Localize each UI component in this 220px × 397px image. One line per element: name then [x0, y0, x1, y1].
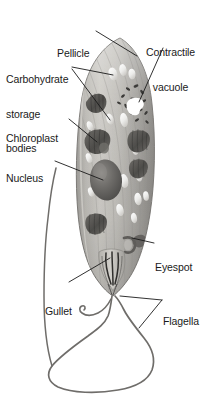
label-gullet: Gullet [45, 283, 72, 329]
long-flagellum-upper-arm [44, 168, 56, 366]
label-eyespot-line-0: Eyespot [155, 262, 192, 274]
label-carbohydrate-line-0: Carbohydrate [6, 74, 68, 86]
leader-flagella-bracket [120, 296, 162, 328]
label-flagella-line-0: Flagella [163, 316, 199, 328]
label-contractile-line-0: Contractile [146, 47, 195, 59]
cell-body-group [66, 38, 154, 300]
label-contractile-line-1: vacuole [146, 82, 195, 94]
label-nucleus-line-0: Nucleus [6, 173, 43, 185]
label-contractile-vacuole: Contractile vacuole [146, 24, 195, 105]
label-chloroplast-line-0: Chloroplast [6, 133, 58, 145]
label-gullet-line-0: Gullet [45, 306, 72, 318]
label-nucleus: Nucleus [6, 150, 43, 196]
label-eyespot: Eyespot [155, 239, 192, 285]
short-flagellum [80, 299, 111, 315]
label-flagella: Flagella [163, 293, 199, 339]
